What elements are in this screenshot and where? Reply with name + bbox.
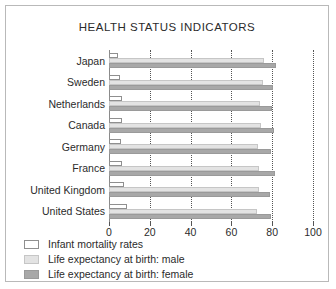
legend-label: Infant mortality rates (48, 238, 143, 250)
gridline (313, 50, 314, 222)
bar-group (109, 139, 313, 154)
bar-group (109, 204, 313, 219)
plot-area: 020406080100 (109, 50, 313, 222)
bar (109, 128, 274, 133)
bar (109, 171, 275, 176)
category-label-japan: Japan (76, 55, 105, 67)
legend-label: Life expectancy at birth: male (48, 253, 185, 265)
bar (109, 149, 271, 154)
category-label-canada: Canada (68, 119, 105, 131)
bar-group (109, 161, 313, 176)
bar (109, 192, 270, 197)
legend-swatch-icon (24, 255, 39, 264)
bar-group (109, 75, 313, 90)
legend-swatch-icon (24, 270, 39, 279)
bar-group (109, 182, 313, 197)
category-label-france: France (72, 162, 105, 174)
category-label-united-states: United States (42, 205, 105, 217)
chart-frame: HEALTH STATUS INDICATORS JapanSwedenNeth… (5, 5, 329, 282)
legend-label: Life expectancy at birth: female (48, 268, 193, 280)
bar (109, 106, 272, 111)
legend-item: Infant mortality rates (24, 237, 193, 251)
category-label-united-kingdom: United Kingdom (30, 184, 105, 196)
bar (109, 85, 273, 90)
chart-title: HEALTH STATUS INDICATORS (6, 21, 328, 33)
bar-group (109, 53, 313, 68)
legend-swatch-icon (24, 240, 39, 249)
category-label-netherlands: Netherlands (48, 98, 105, 110)
legend-item: Life expectancy at birth: male (24, 252, 193, 266)
category-label-sweden: Sweden (67, 76, 105, 88)
bar (109, 214, 271, 219)
bar-group (109, 118, 313, 133)
axis-tick-label: 80 (266, 226, 278, 238)
bar-group (109, 96, 313, 111)
chart-legend: Infant mortality ratesLife expectancy at… (24, 237, 193, 282)
axis-tick-label: 60 (226, 226, 238, 238)
category-axis-labels: JapanSwedenNetherlandsCanadaGermanyFranc… (6, 50, 105, 222)
axis-tick-label: 100 (304, 226, 322, 238)
legend-item: Life expectancy at birth: female (24, 267, 193, 281)
category-label-germany: Germany (62, 141, 105, 153)
bar (109, 63, 276, 68)
